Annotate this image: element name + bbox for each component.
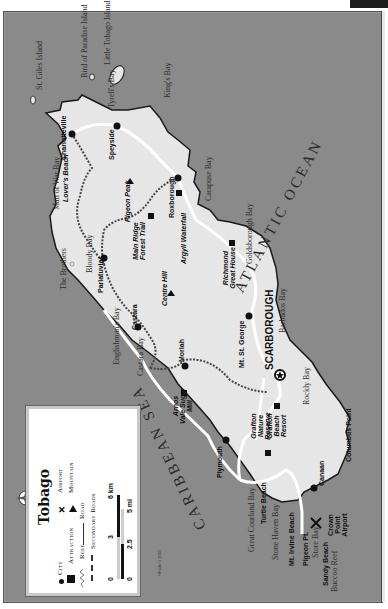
label-sandy-beach: Sandy Beach <box>322 542 329 586</box>
legend-road: Road <box>79 502 86 519</box>
label-lovers-beach: Lover's Beach <box>62 154 69 202</box>
legend-reef: Reef <box>79 544 86 559</box>
city-canaan <box>311 485 318 492</box>
attraction-argyll-icon <box>176 190 182 196</box>
label-great-courland-bay: Great Courland Bay <box>248 488 256 552</box>
legend-airport: Airport <box>57 468 64 493</box>
label-columbus-point: Columbus Point <box>345 408 352 462</box>
label-parlatuvier: Parlatuvier <box>97 257 104 293</box>
label-castara: Castara <box>131 304 138 330</box>
label-pigeon-pt: Pigeon Pt. <box>302 532 309 566</box>
label-grafton-beach-resort: Grafton Beach Resort <box>266 404 287 448</box>
scale-km-mid: 3 <box>107 535 114 539</box>
label-rockly-bay: Rockly Bay <box>303 367 311 405</box>
legend-title: Tobago <box>37 469 51 525</box>
scale-mi-mid: 2.5 <box>126 539 133 549</box>
label-stone-haven-bay: Stone Haven Bay <box>272 504 280 560</box>
st-giles-island <box>31 96 36 104</box>
scale-bar-km <box>117 495 120 579</box>
city-roxborough <box>175 175 182 182</box>
label-man-of-war-bay: Man of War Bay <box>53 157 61 210</box>
label-canaan: Canaan <box>318 461 325 486</box>
attraction-main-ridge-icon <box>148 213 154 219</box>
label-moriah: Moriah <box>178 339 185 362</box>
legend-mountain-icon <box>69 505 77 512</box>
scale-km-max: 6 km <box>107 483 114 499</box>
label-carapuse-bay: Carapuse Bay <box>205 156 213 201</box>
legend-secondary-road-icon <box>91 555 95 581</box>
label-tyrells-bay: Tyrell's Bay <box>108 70 116 108</box>
scale-mi-0: 0 <box>126 577 133 581</box>
legend-airport-icon: ✕ <box>58 505 66 515</box>
legend-secondary-roads: Secondary Roads <box>90 493 97 549</box>
legend-city-icon <box>59 579 64 584</box>
the-brothers-islets <box>70 262 74 266</box>
map-legend: Tobago City ✕ Airport Attraction Mountai… <box>26 406 140 596</box>
label-main-ridge-forest-trail: Main Ridge Forest Trail <box>132 219 146 263</box>
label-plymouth: Plymouth <box>216 446 223 478</box>
city-mt-st-george <box>246 313 253 320</box>
map-credit: ©Fodor's 2005 <box>158 550 162 576</box>
legend-mountain: Mountain <box>68 462 75 493</box>
label-barbados-bay: Barbados Bay <box>279 288 287 333</box>
label-speyside: Speyside <box>108 129 115 160</box>
legend-city: City <box>57 561 64 575</box>
scale-mi-max: 5 mi <box>126 499 133 513</box>
label-mt-irvine-beach: Mt. Irvine Beach <box>288 512 295 566</box>
label-mt-st-george: Mt. St. George <box>238 321 245 368</box>
label-little-tobago: Little Tobago Island <box>104 0 112 65</box>
city-charlotteville <box>69 131 76 138</box>
label-richmond-great-house: Richmond Great House <box>222 246 236 290</box>
label-kings-bay: King's Bay <box>164 63 172 98</box>
label-pigeon-peak: Pigeon Peak <box>124 180 131 222</box>
label-scarborough: SCARBOROUGH <box>265 289 275 370</box>
legend-reef-icon <box>78 569 88 587</box>
label-bloody-bay: Bloody Bay <box>86 235 94 273</box>
label-englishmans-bay: Englishman's Bay <box>113 307 121 365</box>
label-argyll-waterfall: Argyll Waterfall <box>180 213 187 264</box>
capital-star-icon <box>275 370 285 380</box>
label-castara-bay: Castara Bay <box>137 337 145 376</box>
label-store-bay: Store Bay <box>312 526 320 558</box>
label-bird-of-paradise: Bird of Paradise Island <box>81 4 89 78</box>
label-the-brothers: The Brothers <box>60 248 68 290</box>
city-moriah <box>182 363 189 370</box>
label-roxborough: Roxborough <box>168 176 175 218</box>
legend-attraction-icon <box>67 575 75 583</box>
label-charlotteville: Charlotteville <box>60 116 67 160</box>
legend-road-icon <box>83 523 84 545</box>
city-plymouth <box>223 437 230 444</box>
label-centre-hill: Centre Hill <box>161 271 168 306</box>
label-turtle-beach: Turtle Beach <box>260 482 267 524</box>
legend-attraction: Attraction <box>68 528 75 564</box>
bird-of-paradise-island <box>90 74 95 80</box>
scale-bar-mi <box>121 509 124 579</box>
scale-km-0: 0 <box>107 577 114 581</box>
label-buccoo-reef: Buccoo Reef <box>331 550 339 592</box>
attraction-grafton-nature-icon <box>265 450 271 456</box>
label-arnos-vale-sugar-mill: Arnos Vale Sugar Mill <box>172 388 193 424</box>
label-st-giles: St. Giles Island <box>36 41 44 90</box>
label-crown-point-airport: Crown Point Airport <box>327 510 348 540</box>
